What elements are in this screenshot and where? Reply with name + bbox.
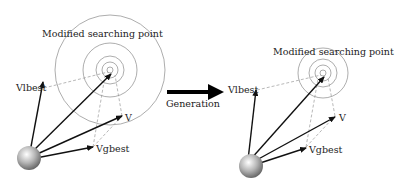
dashed-guides [257,75,335,147]
v-label: V [124,112,132,123]
left-diagram: Modified searching point Vlbest V Vgbest [15,15,165,170]
generation-label: Generation [166,98,220,109]
generation-transition: Generation [166,84,224,109]
particle-sphere [17,146,41,170]
v-label: V [338,112,346,123]
pso-diagram: Modified searching point Vlbest V Vgbest… [0,0,395,183]
vlbest-label: Vlbest [15,82,46,93]
vgbest-label: Vgbest [95,143,130,154]
vlbest-arrow [248,90,256,160]
modified-point-label: Modified searching point [42,28,163,39]
vgbest-label: Vgbest [308,144,343,155]
right-diagram: Modified searching point Vlbest V Vgbest [227,46,394,178]
v-arrow [253,117,335,162]
dashed-guides [44,72,122,147]
modified-point-label: Modified searching point [273,46,394,57]
vgbest-arrow [36,147,93,158]
particle-sphere [239,154,263,178]
vlbest-label: Vlbest [227,84,258,95]
